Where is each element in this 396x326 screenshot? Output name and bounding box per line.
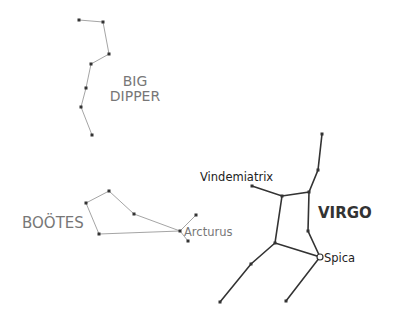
big-dipper-constellation: BIG DIPPER	[78, 19, 161, 137]
big-dipper-label-line1: BIG	[123, 73, 148, 89]
spica-label: Spica	[324, 251, 355, 265]
star-chart: BIG DIPPER BOÖTES Arcturus	[0, 0, 396, 326]
arcturus-label: Arcturus	[184, 225, 232, 239]
bootes-label: BOÖTES	[22, 213, 84, 232]
spica-star-icon	[317, 254, 323, 260]
virgo-label: VIRGO	[318, 204, 372, 222]
bootes-constellation: BOÖTES Arcturus	[22, 190, 232, 243]
vindemiatrix-label: Vindemiatrix	[200, 170, 273, 184]
virgo-constellation: VIRGO Vindemiatrix Spica	[200, 133, 372, 304]
big-dipper-label-line2: DIPPER	[110, 88, 161, 104]
